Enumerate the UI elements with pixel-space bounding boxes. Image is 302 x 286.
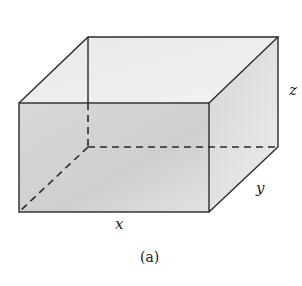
label-y: y [255,179,265,197]
front-face [19,103,209,212]
box-diagram: z y x (a) [0,0,302,286]
figure-caption: (a) [140,249,159,265]
label-z: z [288,81,297,99]
label-x: x [115,215,124,233]
